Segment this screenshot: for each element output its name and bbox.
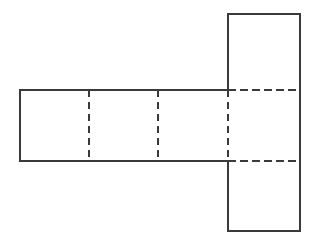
figure-canvas	[0, 0, 316, 238]
net-diagram	[0, 0, 316, 238]
